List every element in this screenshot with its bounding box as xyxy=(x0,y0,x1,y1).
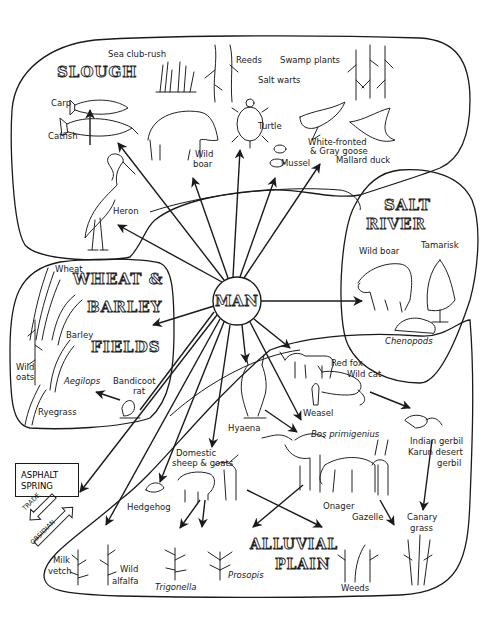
label-ryegrass: Ryegrass xyxy=(38,407,77,417)
label-karun-1: Karun desert xyxy=(408,447,463,457)
label-weeds: Weeds xyxy=(341,583,369,593)
goose-drawing xyxy=(300,102,395,141)
onager-drawing xyxy=(320,458,375,493)
alluvial-title-1: ALLUVIAL xyxy=(250,536,338,552)
salt-river-title-2: RIVER xyxy=(366,215,426,233)
label-turtle: Turtle xyxy=(258,121,282,131)
label-gazelle: Gazelle xyxy=(352,512,383,522)
wheat-title-2: BARLEY xyxy=(87,298,162,316)
swamp-plants-drawing xyxy=(348,45,393,100)
gerbil-drawing xyxy=(405,415,442,428)
label-bandicoot-2: rat xyxy=(133,386,145,396)
label-karun-2: gerbil xyxy=(437,458,461,468)
tamarisk-drawing xyxy=(427,260,455,322)
man-node-label: MAN xyxy=(215,292,258,310)
red-fox-drawing xyxy=(280,352,334,378)
label-wild-oats-1: Wild xyxy=(16,362,34,372)
label-weasel: Weasel xyxy=(303,408,333,418)
label-carp: Carp xyxy=(51,98,71,108)
label-barley: Barley xyxy=(66,330,93,340)
label-wild-cat: Wild cat xyxy=(347,369,381,379)
canary-grass-drawing xyxy=(404,535,432,585)
mussel-drawing-2 xyxy=(274,145,286,153)
ryegrass-drawing xyxy=(25,385,46,425)
label-salt-warts: Salt warts xyxy=(258,75,300,85)
label-canary-2: grass xyxy=(410,523,433,533)
wild-boar-salt-river-drawing xyxy=(358,264,412,312)
label-prosopis: Prosopis xyxy=(228,570,264,580)
label-milk-vetch-2: vetch xyxy=(48,566,72,576)
label-wild-boar-salt-river: Wild boar xyxy=(359,246,399,256)
asphalt-spring-box: ASPHALT SPRING xyxy=(15,463,79,497)
asphalt-label-2: SPRING xyxy=(21,481,78,492)
chenopods-drawing xyxy=(395,318,435,333)
label-reeds: Reeds xyxy=(236,55,262,65)
label-sheep-2: sheep & goats xyxy=(172,458,233,468)
label-onager: Onager xyxy=(323,501,354,511)
label-wild-boar-slough-1: Wild xyxy=(195,149,213,159)
label-wild-alfalfa-1: Wild xyxy=(120,564,138,574)
label-hedgehog: Hedgehog xyxy=(127,502,171,512)
weasel-drawing xyxy=(312,384,319,406)
milk-vetch-drawing xyxy=(70,550,88,585)
label-wheat: Wheat xyxy=(55,264,83,274)
label-hyaena: Hyaena xyxy=(228,423,260,433)
label-sheep-1: Domestic xyxy=(176,448,216,458)
asphalt-label-1: ASPHALT xyxy=(21,470,78,481)
bos-primigenius-drawing xyxy=(262,434,325,492)
label-milk-vetch-1: Milk xyxy=(53,555,70,565)
label-indian-gerbil: Indian gerbil xyxy=(410,436,463,446)
carp-drawing xyxy=(70,100,128,115)
gazelle-drawing xyxy=(372,440,388,495)
label-tamarisk: Tamarisk xyxy=(421,240,459,250)
label-red-fox: Red fox xyxy=(331,358,363,368)
label-sea-club-rush: Sea club-rush xyxy=(108,49,166,59)
label-bandicoot-1: Bandicoot xyxy=(113,376,156,386)
label-trigonella: Trigonella xyxy=(155,582,197,592)
label-aegilops: Aegilops xyxy=(64,376,100,386)
weeds-drawing xyxy=(338,545,378,582)
salt-river-title-1: SALT xyxy=(384,196,431,214)
wheat-title-1: WHEAT & xyxy=(73,270,163,288)
wheat-title-3: FIELDS xyxy=(91,338,161,356)
label-canary-1: Canary xyxy=(407,512,437,522)
alluvial-title-2: PLAIN xyxy=(275,556,331,572)
reeds-drawing xyxy=(205,45,238,102)
hedgehog-drawing xyxy=(146,483,164,492)
sea-club-rush-drawing xyxy=(156,62,196,92)
trigonella-drawing xyxy=(165,548,186,580)
label-mallard: Mallard duck xyxy=(336,155,390,165)
label-wild-alfalfa-2: alfalfa xyxy=(112,576,138,586)
bandicoot-rat-drawing xyxy=(120,401,140,418)
label-swamp-plants: Swamp plants xyxy=(280,55,340,65)
slough-title: SLOUGH xyxy=(57,63,138,81)
label-bos-primigenius: Bos primigenius xyxy=(311,429,379,439)
label-chenopods: Chenopods xyxy=(385,336,433,346)
label-wild-oats-2: oats xyxy=(16,372,34,382)
heron-drawing xyxy=(85,154,135,250)
label-heron: Heron xyxy=(113,206,139,216)
diagram-canvas xyxy=(0,0,496,629)
label-wild-boar-slough-2: boar xyxy=(193,159,212,169)
label-mussel: Mussel xyxy=(281,158,310,168)
slough-boundary-arc xyxy=(150,189,360,212)
label-catfish: Catfish xyxy=(48,131,78,141)
